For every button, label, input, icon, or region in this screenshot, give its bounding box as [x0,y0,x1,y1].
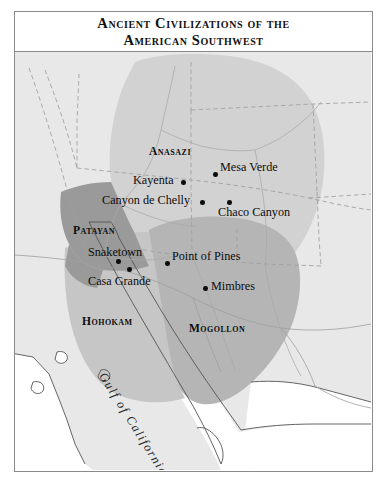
site-dot-canyon-de-chelly [200,200,205,205]
site-dot-point-of-pines [165,261,170,266]
site-label-point-of-pines: Point of Pines [172,249,240,264]
site-dot-casa-grande [127,267,132,272]
page-title-line-1: Ancient Civilizations of the [97,15,289,31]
site-label-canyon-de-chelly: Canyon de Chelly [102,193,190,208]
site-label-mimbres: Mimbres [211,279,255,294]
culture-label-patayan: Patayan [73,224,115,236]
site-label-snaketown: Snaketown [88,245,142,260]
culture-label-anasazi: Anasazi [149,145,191,157]
site-dot-chaco-canyon [227,200,232,205]
culture-label-hohokam: Hohokam [82,315,133,327]
site-dot-mimbres [203,286,208,291]
page-title-line-2: American Southwest [123,32,263,48]
site-label-casa-grande: Casa Grande [88,274,151,289]
map-plate: Ancient Civilizations of the American So… [0,0,386,498]
site-dot-kayenta [181,180,186,185]
site-label-kayenta: Kayenta [133,173,174,188]
site-dot-snaketown [116,259,121,264]
site-dot-mesa-verde [213,172,218,177]
map-frame: Ancient Civilizations of the American So… [14,11,373,472]
site-label-mesa-verde: Mesa Verde [220,160,278,175]
title-cartouche: Ancient Civilizations of the American So… [15,12,372,52]
culture-label-mogollon: Mogollon [189,322,245,334]
site-label-chaco-canyon: Chaco Canyon [218,205,290,220]
map-canvas: Anasazi Patayan Hohokam Mogollon Mesa Ve… [15,52,371,470]
